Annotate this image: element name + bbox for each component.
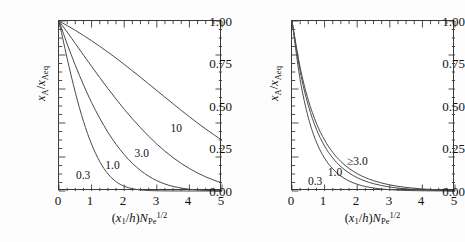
figure-root: 1.00 0.75 0.50 0.25 0.00 0 1 2 3 4 5 xA/… [0, 0, 465, 242]
xtick-left-2: 2 [113, 194, 133, 207]
curve-label-left-1: 1.0 [105, 160, 119, 172]
xtick-right-3: 3 [379, 194, 399, 207]
ytick-right-1: 0.25 [421, 142, 465, 155]
xtick-left-0: 0 [48, 194, 68, 207]
y-axis-label-right: xA/xAeq [267, 36, 282, 132]
ytick-right-3: 0.75 [421, 57, 465, 70]
xtick-left-4: 4 [178, 194, 198, 207]
curve-label-right-0: 0.3 [308, 176, 322, 188]
curve-label-right-1: 1.0 [328, 167, 342, 179]
curve-label-right-2: ≥3.0 [347, 156, 368, 168]
xtick-left-5: 5 [211, 194, 231, 207]
x-axis-label-right: (x1/h)NPe1/2 [291, 210, 454, 226]
y-axis-label-left: xA/xAeq [34, 36, 49, 132]
x-axis-label-left: (x1/h)NPe1/2 [58, 210, 221, 226]
xtick-right-5: 5 [444, 194, 464, 207]
xtick-right-2: 2 [346, 194, 366, 207]
ytick-left-2: 0.50 [188, 100, 232, 113]
xtick-left-3: 3 [146, 194, 166, 207]
curve-label-left-2: 3.0 [135, 148, 149, 160]
ytick-right-2: 0.50 [421, 100, 465, 113]
ytick-right-4: 1.00 [421, 15, 465, 28]
chart-panel-left: 1.00 0.75 0.50 0.25 0.00 0 1 2 3 4 5 xA/… [0, 0, 232, 242]
ytick-left-3: 0.75 [188, 57, 232, 70]
chart-panel-right: 1.00 0.75 0.50 0.25 0.00 0 1 2 3 4 5 xA/… [233, 0, 465, 242]
ytick-left-1: 0.25 [188, 142, 232, 155]
xtick-right-4: 4 [411, 194, 431, 207]
xtick-right-1: 1 [313, 194, 333, 207]
xtick-right-0: 0 [281, 194, 301, 207]
ytick-left-4: 1.00 [188, 15, 232, 28]
xtick-left-1: 1 [80, 194, 100, 207]
curve-label-left-0: 0.3 [76, 170, 90, 182]
curve-label-left-3: 10 [170, 123, 182, 135]
